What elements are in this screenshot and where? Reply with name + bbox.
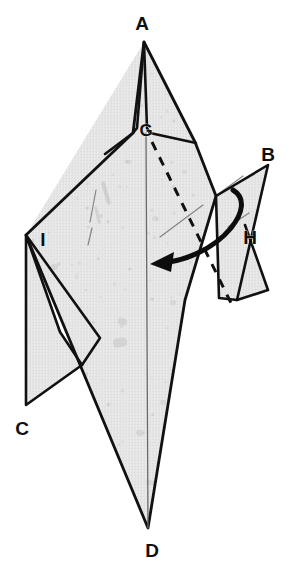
paper-grain-dot (218, 420, 222, 424)
paper-grain-dot (51, 117, 54, 120)
paper-grain-dot (179, 293, 181, 295)
paper-grain-dot (151, 413, 154, 416)
paper-grain-dot (84, 63, 87, 66)
paper-grain-dot (171, 67, 175, 71)
paper-grain-dot (242, 501, 244, 503)
paper-grain-dot (185, 374, 188, 377)
paper-grain-dot (179, 450, 181, 452)
paper-grain-dot (202, 488, 204, 490)
paper-grain-dot (36, 207, 38, 209)
paper-grain-dot (68, 159, 70, 161)
paper-speckle (205, 370, 211, 374)
paper-grain-dot (164, 93, 166, 95)
paper-grain-dot (50, 452, 53, 455)
paper-grain-dot (156, 218, 159, 221)
paper-grain-dot (153, 236, 156, 239)
paper-grain-dot (121, 226, 123, 228)
paper-grain-dot (171, 161, 174, 164)
paper-grain-dot (165, 109, 168, 112)
paper-grain-dot (86, 206, 89, 209)
paper-grain-dot (88, 504, 90, 506)
paper-grain-dot (30, 63, 31, 64)
paper-grain-dot (199, 351, 202, 354)
paper-grain-dot (181, 372, 183, 374)
paper-grain-dot (252, 153, 253, 154)
paper-grain-dot (69, 390, 72, 393)
paper-grain-dot (261, 361, 264, 364)
paper-grain-dot (90, 526, 93, 529)
paper-grain-dot (238, 439, 242, 443)
paper-grain-dot (33, 493, 37, 497)
paper-grain-dot (225, 460, 229, 464)
paper-grain-dot (55, 151, 58, 154)
paper-grain-dot (166, 327, 169, 330)
paper-grain-dot (192, 503, 194, 505)
paper-grain-dot (118, 284, 120, 286)
paper-speckle (190, 500, 195, 504)
paper-grain-dot (215, 525, 217, 527)
paper-grain-dot (209, 82, 210, 83)
paper-grain-dot (44, 394, 47, 397)
paper-grain-dot (189, 263, 191, 265)
vertex-label-i: I (40, 229, 45, 250)
paper-grain-dot (101, 379, 102, 380)
paper-grain-dot (143, 431, 146, 434)
paper-grain-dot (195, 43, 197, 45)
paper-speckle (195, 279, 204, 287)
paper-grain-dot (55, 101, 57, 103)
paper-grain-dot (268, 235, 271, 238)
paper-grain-dot (32, 205, 33, 206)
paper-grain-dot (273, 361, 274, 362)
paper-grain-dot (208, 70, 211, 73)
origami-diagram-canvas: AGBIHCD (0, 0, 297, 576)
paper-grain-dot (234, 350, 237, 353)
paper-grain-dot (76, 273, 79, 276)
paper-grain-dot (263, 307, 265, 309)
paper-grain-dot (271, 108, 273, 110)
paper-grain-dot (49, 253, 50, 254)
paper-grain-dot (42, 528, 44, 530)
paper-grain-dot (86, 182, 90, 186)
paper-grain-dot (172, 120, 175, 123)
paper-speckle (160, 400, 166, 405)
paper-grain-dot (122, 44, 124, 46)
paper-grain-dot (125, 59, 127, 61)
paper-grain-dot (71, 264, 73, 266)
paper-grain-dot (39, 40, 40, 41)
paper-grain-dot (182, 492, 185, 495)
paper-grain-dot (97, 92, 100, 95)
paper-speckle (170, 300, 176, 305)
paper-grain-dot (79, 499, 81, 501)
paper-grain-dot (177, 376, 181, 380)
paper-grain-dot (50, 278, 51, 279)
paper-grain-dot (242, 313, 244, 315)
paper-grain-dot (206, 237, 207, 238)
paper-grain-dot (86, 189, 87, 190)
paper-grain-dot (259, 420, 262, 423)
paper-grain-dot (199, 79, 202, 82)
vertex-label-a: A (135, 13, 149, 34)
paper-grain-dot (192, 194, 195, 197)
paper-grain-dot (161, 179, 163, 181)
paper-grain-dot (140, 104, 144, 108)
paper-grain-dot (26, 122, 28, 124)
paper-grain-dot (74, 477, 75, 478)
vertex-label-b: B (261, 144, 275, 165)
paper-grain-dot (86, 450, 89, 453)
paper-grain-dot (239, 44, 241, 46)
paper-grain-dot (125, 160, 128, 163)
paper-grain-dot (38, 112, 42, 116)
vertex-label-d: D (145, 540, 159, 561)
paper-grain-dot (103, 247, 105, 249)
paper-grain-dot (150, 209, 153, 212)
paper-grain-dot (156, 522, 159, 525)
paper-grain-dot (162, 496, 164, 498)
paper-grain-dot (203, 517, 205, 519)
paper-grain-dot (172, 185, 175, 188)
paper-grain-dot (61, 66, 62, 67)
paper-grain-dot (100, 296, 102, 298)
paper-grain-dot (211, 115, 215, 119)
paper-grain-dot (60, 401, 61, 402)
paper-grain-dot (176, 462, 178, 464)
paper-grain-dot (180, 80, 182, 82)
